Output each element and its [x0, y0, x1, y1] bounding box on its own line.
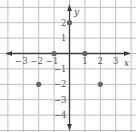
data-point [67, 20, 72, 25]
y-tick-label: −3 [54, 95, 67, 105]
y-tick-label: 1 [61, 33, 66, 43]
x-axis-left-arrow-icon [6, 51, 12, 56]
y-axis-label: y [73, 7, 80, 17]
coordinate-plane: y x −3−2−112321−1−2−3−4 [0, 0, 136, 132]
data-point [52, 51, 57, 56]
x-tick-label: 3 [113, 56, 118, 66]
y-tick-label: −1 [54, 64, 67, 74]
data-point [98, 82, 103, 87]
y-tick-label: 2 [61, 18, 66, 28]
x-tick-label: −3 [15, 56, 28, 66]
y-axis-up-arrow-icon [67, 5, 72, 11]
x-tick-label: 1 [82, 56, 87, 66]
x-tick-label: 2 [98, 56, 103, 66]
grid [0, 0, 136, 132]
y-tick-label: −4 [54, 110, 67, 120]
y-tick-label: −2 [54, 79, 67, 89]
x-axis-label: x [124, 58, 129, 68]
data-point [82, 51, 87, 56]
y-axis-down-arrow-icon [67, 124, 72, 130]
x-tick-label: −2 [30, 56, 43, 66]
data-point [36, 82, 41, 87]
x-axis-right-arrow-icon [124, 51, 130, 56]
